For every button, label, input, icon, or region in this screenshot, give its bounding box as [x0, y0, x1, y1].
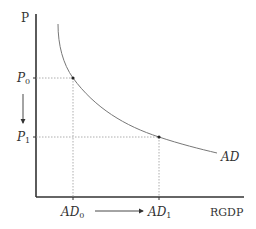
- x-axis-label: RGDP: [210, 206, 244, 219]
- point-1: [157, 135, 160, 138]
- p1-label: P1: [16, 130, 30, 145]
- ad-curve: [58, 24, 217, 153]
- ad1-label: AD1: [147, 205, 171, 220]
- ad-curve-label: AD: [220, 150, 240, 164]
- ad0-label: AD0: [60, 205, 84, 220]
- point-0: [71, 76, 74, 79]
- p0-label: P0: [16, 71, 30, 86]
- ad-diagram: P P0 P1 AD0 AD1 RGDP AD: [0, 0, 256, 229]
- y-axis-label: P: [21, 11, 29, 25]
